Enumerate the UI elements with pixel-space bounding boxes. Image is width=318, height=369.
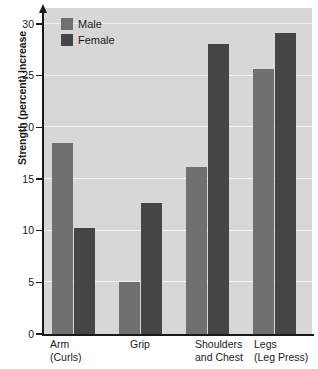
bar-chart: Strength (percent) Increase 051015202530…: [0, 0, 318, 369]
legend: MaleFemale: [61, 17, 115, 49]
x-axis-label-line1: Shoulders: [195, 338, 243, 351]
y-axis-tick: [36, 230, 42, 232]
x-axis-label-3: Legs(Leg Press): [254, 338, 308, 363]
y-axis-tick-label: 10: [8, 225, 34, 236]
y-axis-line: [42, 12, 44, 336]
bar-female-3: [275, 33, 296, 334]
y-axis-tick: [36, 127, 42, 129]
bar-female-1: [141, 203, 162, 334]
y-axis-tick: [36, 333, 42, 335]
x-axis-label-line2: (Leg Press): [254, 351, 308, 364]
y-axis-tick-label: 0: [8, 329, 34, 340]
bar-male-2: [186, 167, 207, 334]
x-axis-label-2: Shouldersand Chest: [195, 338, 243, 363]
y-axis-tick: [36, 23, 42, 25]
bar-female-2: [208, 44, 229, 334]
bar-male-0: [52, 143, 73, 334]
x-axis-label-0: Arm(Curls): [50, 338, 82, 363]
y-axis-tick-label: 25: [8, 70, 34, 81]
y-axis-title: Strength (percent) Increase: [16, 8, 28, 188]
y-axis-tick: [36, 178, 42, 180]
legend-item-female: Female: [61, 33, 115, 47]
y-axis-arrow-icon: [39, 4, 47, 13]
x-axis-line: [42, 334, 314, 336]
y-axis-tick-label: 20: [8, 122, 34, 133]
x-axis-label-line1: Grip: [130, 338, 150, 351]
bar-male-3: [253, 69, 274, 334]
x-axis-label-line1: Legs: [254, 338, 308, 351]
y-axis-tick-label: 5: [8, 277, 34, 288]
bar-male-1: [119, 282, 140, 334]
y-axis-tick-label: 15: [8, 174, 34, 185]
legend-label-male: Male: [78, 19, 102, 30]
x-axis-label-line1: Arm: [50, 338, 82, 351]
y-axis-tick: [36, 282, 42, 284]
legend-item-male: Male: [61, 17, 115, 31]
plot-area: [44, 8, 312, 334]
x-axis-label-line2: and Chest: [195, 351, 243, 364]
y-axis-tick-label: 30: [8, 19, 34, 30]
legend-swatch-male: [61, 18, 73, 30]
x-axis-label-1: Grip: [130, 338, 150, 351]
bar-female-0: [74, 228, 95, 334]
legend-label-female: Female: [78, 35, 115, 46]
legend-swatch-female: [61, 34, 73, 46]
x-axis-label-line2: (Curls): [50, 351, 82, 364]
y-axis-tick: [36, 75, 42, 77]
